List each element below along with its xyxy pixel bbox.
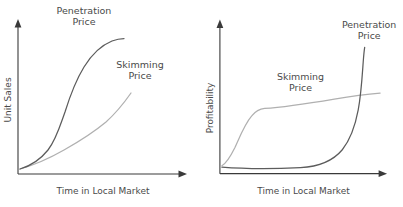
right-y-axis-arrow-icon xyxy=(217,19,224,27)
left-skimming-price-curve xyxy=(20,93,131,169)
right-chart-svg: Penetration Price Skimming Price Profita… xyxy=(201,0,402,207)
right-penetration-price-curve xyxy=(222,47,365,168)
left-skimming-label-line2: Price xyxy=(128,70,151,81)
left-penetration-price-curve xyxy=(20,39,124,170)
right-x-axis-title: Time in Local Market xyxy=(256,186,350,196)
left-x-axis-title: Time in Local Market xyxy=(55,186,150,196)
left-y-axis-title: Unit Sales xyxy=(3,77,13,122)
right-skimming-label-line1: Skimming xyxy=(277,71,324,82)
left-chart-svg: Penetration Price Skimming Price Unit Sa… xyxy=(0,0,201,207)
right-y-axis-title: Profitability xyxy=(205,82,215,133)
left-x-axis-arrow-icon xyxy=(179,171,188,178)
left-penetration-label-line2: Price xyxy=(72,16,95,27)
right-chart-panel-profitability: Penetration Price Skimming Price Profita… xyxy=(201,0,402,207)
right-skimming-price-curve xyxy=(222,93,380,166)
right-penetration-label-line2: Price xyxy=(358,30,381,41)
right-skimming-label-line2: Price xyxy=(289,82,312,93)
left-chart-panel-unit-sales: Penetration Price Skimming Price Unit Sa… xyxy=(0,0,201,207)
left-penetration-label-line1: Penetration xyxy=(57,5,112,16)
left-y-axis-arrow-icon xyxy=(15,19,22,28)
left-skimming-label-line1: Skimming xyxy=(116,59,163,70)
right-x-axis-arrow-icon xyxy=(379,170,387,177)
two-panel-pricing-strategy-figure: Penetration Price Skimming Price Unit Sa… xyxy=(0,0,403,207)
right-penetration-label-line1: Penetration xyxy=(342,19,396,30)
